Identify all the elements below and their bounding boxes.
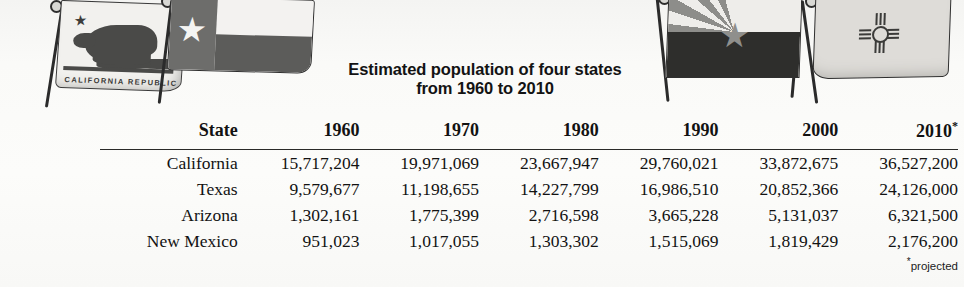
zia-ray [887,37,899,39]
footnote-text: projected [911,260,958,272]
column-header-2010: 2010* [838,116,958,150]
texas-flag: ★ [148,0,313,104]
table-body: California 15,717,204 19,971,069 23,667,… [100,150,958,255]
cell-arizona-1980: 2,716,598 [479,202,599,228]
cell-newmexico-1990: 1,515,069 [599,228,719,254]
table-row: Texas 9,579,677 11,198,655 14,227,799 16… [100,176,958,202]
row-label-california: California [100,150,240,177]
population-table: State 1960 1970 1980 1990 2000 2010* Cal… [100,116,958,254]
newmexico-flag-cloth [812,0,951,79]
cell-arizona-1970: 1,775,399 [359,202,479,228]
cell-arizona-2000: 5,131,037 [719,202,839,228]
zia-ray [883,13,885,25]
title-line-2: from 1960 to 2010 [305,79,665,98]
california-star-icon: ★ [73,13,87,29]
zia-ray [859,37,871,39]
cell-california-1960: 15,717,204 [240,150,360,177]
zia-ray [875,13,877,25]
zia-ray [879,13,881,25]
row-label-arizona: Arizona [100,202,240,228]
arizona-flag-cloth: ★ [665,0,802,78]
column-header-1980: 1980 [479,116,599,150]
column-header-1970: 1970 [359,116,479,150]
column-header-2000: 2000 [719,116,839,150]
cell-texas-2000: 20,852,366 [719,176,839,202]
table-row: Arizona 1,302,161 1,775,399 2,716,598 3,… [100,202,958,228]
cell-arizona-1990: 3,665,228 [599,202,719,228]
texas-white-stripe [216,0,314,37]
texas-flag-cloth: ★ [167,0,315,74]
cell-california-1970: 19,971,069 [359,150,479,177]
arizona-star-icon: ★ [718,19,749,53]
column-header-state: State [100,116,240,150]
column-header-1960: 1960 [240,116,360,150]
table-header: State 1960 1970 1980 1990 2000 2010* [100,116,958,150]
zia-ray [887,29,899,31]
cell-newmexico-1970: 1,017,055 [359,228,479,254]
cell-arizona-1960: 1,302,161 [240,202,360,228]
cell-newmexico-1960: 951,023 [240,228,360,254]
zia-ray [859,29,871,31]
table-row: California 15,717,204 19,971,069 23,667,… [100,150,958,177]
cell-newmexico-1980: 1,303,302 [479,228,599,254]
cell-texas-1990: 16,986,510 [599,176,719,202]
texas-red-stripe [214,34,312,72]
cell-california-2000: 33,872,675 [719,150,839,177]
cell-california-1980: 23,667,947 [479,150,599,177]
cell-texas-1980: 14,227,799 [479,176,599,202]
cell-arizona-2010: 6,321,500 [838,202,958,228]
zia-ray [882,41,884,53]
row-label-newmexico: New Mexico [100,228,240,254]
zia-sun-icon [860,15,897,52]
zia-ray [874,41,876,53]
zia-ray [859,33,871,35]
projected-asterisk: * [952,119,958,133]
california-bear-icon [85,25,158,59]
row-label-texas: Texas [100,176,240,202]
cell-newmexico-2010: 2,176,200 [838,228,958,254]
zia-ray [878,41,880,53]
arizona-flag: ★ [655,0,815,102]
title-line-1: Estimated population of four states [348,60,621,78]
column-header-2010-label: 2010 [916,121,952,141]
table-header-row: State 1960 1970 1980 1990 2000 2010* [100,116,958,150]
texas-star-icon: ★ [175,13,207,48]
cell-texas-1960: 9,579,677 [240,176,360,202]
cell-newmexico-2000: 1,819,429 [719,228,839,254]
newmexico-flag [800,0,960,104]
zia-ray [887,33,899,35]
cell-california-2010: 36,527,200 [838,150,958,177]
column-header-1990: 1990 [599,116,719,150]
cell-california-1990: 29,760,021 [599,150,719,177]
footnote: *projected [907,256,958,272]
table-row: New Mexico 951,023 1,017,055 1,303,302 1… [100,228,958,254]
cell-texas-1970: 11,198,655 [359,176,479,202]
texas-blue-hoist: ★ [168,0,218,70]
page-title: Estimated population of four states from… [305,60,665,98]
cell-texas-2010: 24,126,000 [838,176,958,202]
